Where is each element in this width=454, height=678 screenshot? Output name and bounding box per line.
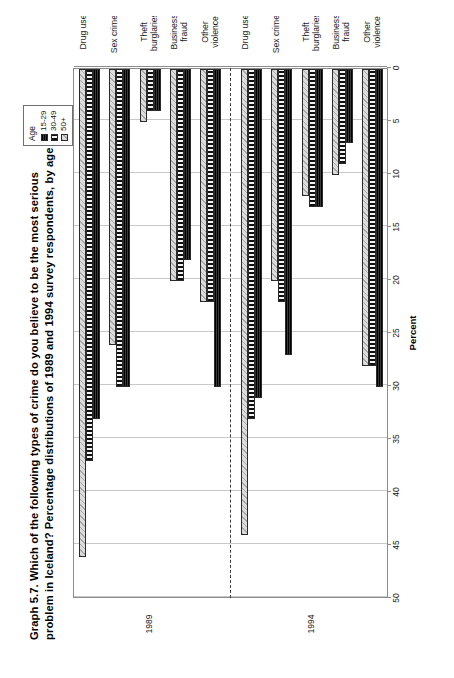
- category-label: Sex crimes: [271, 16, 281, 64]
- period-label-1994: 1994: [306, 615, 316, 634]
- legend: Age 15-29 30-49 50+: [23, 105, 73, 146]
- bar-1989-drug-use-30-49: [86, 69, 93, 461]
- legend-swatch-15-29-icon: [41, 134, 48, 141]
- bar-1989-theft-burglaries-30-49: [147, 69, 154, 111]
- legend-item-30-49[interactable]: 30-49: [49, 111, 59, 141]
- bar-1994-sex-crimes-30-49: [278, 69, 285, 302]
- value-axis-tick-label: 30: [391, 381, 401, 390]
- bar-1989-other-violence-15-29: [214, 69, 221, 387]
- bar-1989-sex-crimes-30-49: [116, 69, 123, 387]
- value-axis-tick-label: 0: [391, 66, 401, 71]
- year-separator-dashed-line: [230, 68, 231, 598]
- category-label: Drug use: [78, 16, 88, 64]
- category-label: Drug use: [240, 16, 250, 64]
- legend-item-50-plus[interactable]: 50+: [59, 111, 69, 141]
- value-axis-tick-label: 20: [391, 275, 401, 284]
- bar-1989-drug-use-50+: [79, 69, 86, 557]
- gridline-0: [74, 66, 387, 67]
- bar-1994-theft-burglaries-30-49: [309, 69, 316, 207]
- value-axis-tick-label: 25: [391, 328, 401, 337]
- value-axis-tick-label: 5: [391, 119, 401, 124]
- page-root: Graph 5.7. Which of the following types …: [0, 0, 454, 678]
- bar-1989-other-violence-50+: [200, 69, 207, 302]
- bar-1994-other-violence-30-49: [369, 69, 376, 366]
- value-axis-tick-label: 10: [391, 169, 401, 178]
- legend-swatch-30-49-icon: [51, 134, 58, 141]
- legend-title: Age: [27, 111, 37, 141]
- bar-1989-sex-crimes-15-29: [123, 69, 130, 387]
- bar-1989-theft-burglaries-50+: [140, 69, 147, 122]
- value-axis-tick-label: 15: [391, 222, 401, 231]
- bar-1994-drug-use-15-29: [255, 69, 262, 398]
- bar-1994-theft-burglaries-50+: [302, 69, 309, 196]
- bar-1994-drug-use-30-49: [248, 69, 255, 419]
- chart-canvas: Graph 5.7. Which of the following types …: [17, 16, 437, 662]
- bar-1994-sex-crimes-50+: [271, 69, 278, 281]
- legend-label-50-plus: 50+: [59, 117, 69, 131]
- category-label: Other violence: [362, 16, 382, 64]
- legend-swatch-50-plus-icon: [61, 134, 68, 141]
- category-label: Business fraud: [331, 16, 351, 64]
- value-axis-tick-label: 35: [391, 434, 401, 443]
- value-axis-tick-label: 40: [391, 487, 401, 496]
- bar-1994-other-violence-50+: [362, 69, 369, 366]
- category-label: Theft burglaries: [301, 16, 321, 64]
- value-axis-title: Percent: [407, 68, 418, 598]
- category-label: Business fraud: [169, 16, 189, 64]
- bar-1994-business-fraud-30-49: [339, 69, 346, 164]
- value-axis-tick-label: 45: [391, 540, 401, 549]
- bar-1989-business-fraud-50+: [170, 69, 177, 281]
- bar-1989-business-fraud-15-29: [184, 69, 191, 260]
- bar-1994-other-violence-15-29: [376, 69, 383, 387]
- bar-1994-business-fraud-50+: [332, 69, 339, 175]
- value-axis-tick-label: 50: [391, 593, 401, 602]
- legend-label-30-49: 30-49: [49, 111, 59, 131]
- category-label: Theft burglaries: [139, 16, 159, 64]
- bar-1989-other-violence-30-49: [207, 69, 214, 302]
- bar-1994-theft-burglaries-15-29: [316, 69, 323, 207]
- bar-1994-business-fraud-15-29: [346, 69, 353, 143]
- period-label-1989: 1989: [144, 615, 154, 634]
- bar-1989-business-fraud-30-49: [177, 69, 184, 281]
- bar-1989-theft-burglaries-15-29: [154, 69, 161, 111]
- rotated-figure-wrapper: Graph 5.7. Which of the following types …: [17, 16, 437, 662]
- bar-1989-drug-use-15-29: [93, 69, 100, 419]
- legend-label-15-29: 15-29: [39, 111, 49, 131]
- bar-1994-drug-use-50+: [241, 69, 248, 535]
- bar-1994-sex-crimes-15-29: [285, 69, 292, 355]
- category-axis-line: [387, 68, 388, 598]
- bar-1989-sex-crimes-50+: [109, 69, 116, 345]
- category-label: Other violence: [200, 16, 220, 64]
- category-label: Sex crimes: [109, 16, 119, 64]
- legend-item-15-29[interactable]: 15-29: [39, 111, 49, 141]
